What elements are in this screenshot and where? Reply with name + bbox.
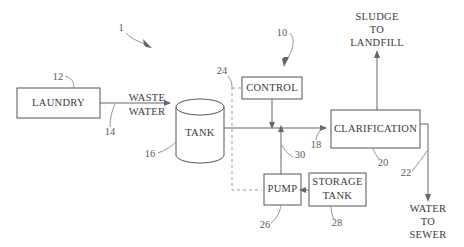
storage-tank-ref-annotation: 28 (331, 206, 342, 228)
flow-18-ref-annotation: 18 (311, 128, 322, 150)
control-ref-annotation: 10 (277, 27, 293, 67)
sewer-label-line2: TO (421, 216, 436, 227)
ref-10-arrowhead (282, 57, 289, 67)
ref-label-10: 10 (277, 27, 288, 38)
ref-label-12: 12 (53, 71, 64, 82)
ref-24-leader (228, 76, 232, 87)
flow-water-to-sewer: WATER TO SEWER (409, 124, 446, 240)
storage-tank-label-line2: TANK (323, 190, 353, 201)
block-pump[interactable]: PUMP (264, 174, 301, 205)
block-laundry[interactable]: LAUNDRY (17, 88, 100, 118)
waste-water-label-line1: WASTE (129, 92, 166, 103)
ref-20-leader (373, 148, 379, 159)
ref-label-26: 26 (260, 219, 271, 230)
control-bus-line (232, 87, 262, 190)
clarification-label: CLARIFICATION (334, 123, 417, 134)
flow-waste-water: WASTE WATER (100, 92, 170, 117)
control-signal-bus (232, 87, 262, 190)
block-storage-tank[interactable]: STORAGE TANK (309, 173, 366, 206)
block-tank[interactable]: TANK (176, 99, 224, 163)
control-to-main-line (269, 99, 275, 129)
sludge-arrowhead (374, 50, 380, 58)
ref-label-30: 30 (295, 149, 306, 160)
storage-to-pump-arrowhead (299, 187, 306, 193)
ref-1-arrowhead (143, 39, 152, 48)
pump-ref-annotation: 26 (260, 205, 281, 230)
ref-1-leader (126, 33, 145, 44)
ref-label-24: 24 (217, 65, 228, 76)
waste-water-ref-annotation: 14 (105, 104, 116, 137)
ref-label-22: 22 (401, 167, 412, 178)
patent-figure: 1 10 LAUNDRY 12 WASTE WATER 14 (0, 0, 464, 247)
control-label: CONTROL (246, 82, 298, 93)
ref-label-20: 20 (378, 157, 389, 168)
ref-label-1: 1 (118, 22, 123, 33)
sewer-arrowhead (425, 194, 431, 202)
sludge-label-line3: LANDFILL (350, 37, 404, 48)
sewer-label-line1: WATER (410, 203, 447, 214)
system-ref-annotation: 1 (118, 22, 152, 48)
laundry-label: LAUNDRY (32, 97, 85, 108)
block-control[interactable]: CONTROL (242, 77, 302, 99)
sewer-ref-annotation: 22 (401, 151, 427, 178)
ref-12-leader (65, 76, 74, 88)
tank-label: TANK (185, 127, 215, 138)
clarification-ref-annotation: 20 (373, 148, 388, 168)
waste-water-label-line2: WATER (129, 106, 166, 117)
ref-14-leader (110, 104, 115, 127)
ref-30-leader (282, 145, 293, 157)
sludge-label-line2: TO (370, 24, 385, 35)
control-bus-ref-annotation: 24 (217, 65, 232, 87)
ref-label-14: 14 (105, 126, 116, 137)
flow-30-ref-annotation: 30 (282, 145, 305, 160)
ref-26-leader (271, 205, 281, 223)
ref-22-leader (412, 151, 427, 171)
tank-top-ellipse (176, 99, 224, 115)
pump-label: PUMP (268, 183, 298, 194)
sludge-label-line1: SLUDGE (355, 11, 398, 22)
block-clarification[interactable]: CLARIFICATION (331, 110, 420, 148)
tank-ref-annotation: 16 (145, 142, 176, 159)
storage-tank-label-line1: STORAGE (312, 176, 362, 187)
ref-label-18: 18 (311, 139, 322, 150)
laundry-ref-annotation: 12 (53, 71, 74, 88)
ref-label-16: 16 (145, 148, 156, 159)
ref-16-leader (158, 142, 176, 153)
flow-pump-to-main (278, 125, 284, 174)
flow-sludge-to-landfill: SLUDGE TO LANDFILL (350, 11, 404, 110)
sewer-label-line3: SEWER (409, 229, 446, 240)
